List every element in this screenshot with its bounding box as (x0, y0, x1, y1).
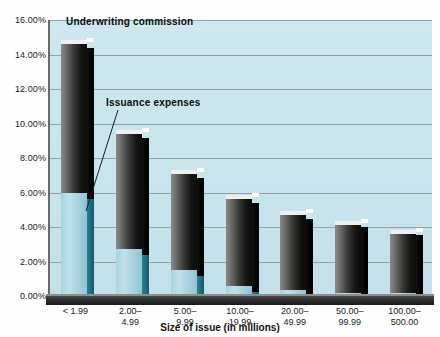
x-axis-floor (46, 296, 434, 305)
y-axis-tick-label: 12.00% (2, 84, 46, 94)
bar-column[interactable] (61, 44, 87, 296)
bar-segment-issuance[interactable] (171, 269, 197, 296)
bar-column[interactable] (280, 215, 306, 296)
y-axis-tick-label: 16.00% (2, 15, 46, 25)
bar-side-face (252, 199, 259, 296)
y-axis-tick-label: 0.00% (2, 291, 46, 301)
bar-segment-underwriting[interactable] (226, 198, 252, 285)
bar-top-face (335, 221, 361, 225)
bar-front-face (171, 174, 197, 296)
bar-side-underwriting (252, 203, 259, 291)
bar-side-face (416, 234, 423, 296)
bar-segment-issuance[interactable] (61, 192, 87, 297)
gridline (50, 124, 432, 125)
bar-front-face (390, 234, 416, 296)
bar-top-face (171, 170, 197, 174)
y-axis-tick-label: 2.00% (2, 257, 46, 267)
bar-segment-underwriting[interactable] (171, 173, 197, 271)
bar-top-side-face (197, 168, 204, 172)
bar-top-face (61, 40, 87, 44)
plot-area: Underwriting commission Issuance expense… (48, 20, 432, 296)
gridline (50, 89, 432, 90)
bar-top-side-face (87, 38, 94, 42)
bar-top-face (390, 230, 416, 234)
y-axis-ticks: 0.00%2.00%4.00%6.00%8.00%10.00%12.00%14.… (0, 20, 46, 296)
bar-column[interactable] (171, 174, 197, 296)
x-axis-title: Size of issue (in millions) (0, 322, 440, 333)
annotation-issuance-expenses: Issuance expenses (106, 97, 201, 108)
bar-top-side-face (252, 193, 259, 197)
annotation-underwriting-commission: Underwriting commission (66, 16, 193, 27)
bar-column[interactable] (226, 199, 252, 296)
gridline (50, 55, 432, 56)
bar-side-underwriting (416, 235, 423, 297)
bar-front-face (61, 44, 87, 296)
bar-top-face (116, 130, 142, 134)
bar-top-side-face (361, 219, 368, 223)
y-axis-tick-label: 14.00% (2, 50, 46, 60)
bar-segment-underwriting[interactable] (116, 133, 142, 250)
bar-front-face (335, 225, 361, 296)
chart-container: Costs ($) 0.00%2.00%4.00%6.00%8.00%10.00… (0, 0, 440, 337)
bar-top-side-face (416, 228, 423, 232)
bar-column[interactable] (116, 134, 142, 296)
bar-side-underwriting (197, 178, 204, 277)
bar-top-side-face (142, 128, 149, 132)
bar-segment-underwriting[interactable] (335, 224, 361, 292)
y-axis-tick-label: 8.00% (2, 153, 46, 163)
bar-side-face (197, 174, 204, 296)
bar-segment-underwriting[interactable] (280, 214, 306, 290)
bar-segment-underwriting[interactable] (61, 43, 87, 192)
gridline (50, 158, 432, 159)
bar-column[interactable] (335, 225, 361, 296)
bar-side-underwriting (306, 219, 313, 296)
bar-front-face (226, 199, 252, 296)
bar-side-face (87, 44, 94, 296)
bar-column[interactable] (390, 234, 416, 296)
x-axis-tick-label: < 1.99 (48, 306, 103, 317)
bar-top-side-face (306, 209, 313, 213)
bar-top-face (280, 211, 306, 215)
bar-segment-issuance[interactable] (116, 248, 142, 296)
bar-side-underwriting (142, 138, 149, 256)
bar-segment-underwriting[interactable] (390, 233, 416, 294)
gridline (50, 193, 432, 194)
bar-front-face (280, 215, 306, 296)
bar-side-face (306, 215, 313, 296)
bar-top-face (226, 195, 252, 199)
bar-side-underwriting (361, 227, 368, 296)
bar-side-issuance (87, 199, 94, 297)
y-axis-tick-label: 6.00% (2, 188, 46, 198)
bar-side-underwriting (87, 48, 94, 198)
bar-side-issuance (142, 255, 149, 296)
y-axis-tick-label: 10.00% (2, 119, 46, 129)
y-axis-tick-label: 4.00% (2, 222, 46, 232)
bar-front-face (116, 134, 142, 296)
bar-side-face (142, 134, 149, 296)
bar-side-face (361, 225, 368, 296)
